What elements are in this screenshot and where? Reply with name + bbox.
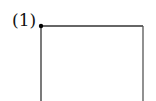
vertex-dot: [39, 24, 43, 28]
diagram-figure: [0, 0, 156, 101]
